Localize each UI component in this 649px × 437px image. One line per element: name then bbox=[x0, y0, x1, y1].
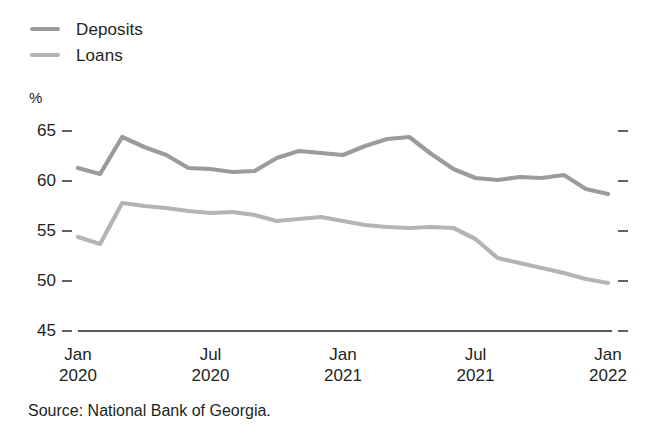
x-tick-month: Jul bbox=[421, 344, 531, 365]
y-tick-label: 50 bbox=[22, 271, 56, 291]
x-tick-year: 2022 bbox=[553, 365, 649, 386]
y-axis-left-ticks bbox=[62, 131, 72, 331]
plot-area: 4550556065 Jan2020Jul2020Jan2021Jul2021J… bbox=[0, 0, 649, 437]
x-tick-year: 2021 bbox=[288, 365, 398, 386]
series-line-deposits bbox=[78, 137, 608, 194]
x-tick-month: Jan bbox=[288, 344, 398, 365]
y-tick-label: 65 bbox=[22, 121, 56, 141]
series-line-loans bbox=[78, 203, 608, 283]
x-tick-year: 2021 bbox=[421, 365, 531, 386]
x-tick-year: 2020 bbox=[23, 365, 133, 386]
x-tick-label: Jan2020 bbox=[23, 344, 133, 386]
x-tick-month: Jul bbox=[156, 344, 266, 365]
x-tick-label: Jan2021 bbox=[288, 344, 398, 386]
x-tick-label: Jul2021 bbox=[421, 344, 531, 386]
x-tick-month: Jan bbox=[553, 344, 649, 365]
x-tick-year: 2020 bbox=[156, 365, 266, 386]
y-tick-label: 60 bbox=[22, 171, 56, 191]
chart-figure: Deposits Loans % 4550556065 Jan2020Jul20… bbox=[0, 0, 649, 437]
x-tick-month: Jan bbox=[23, 344, 133, 365]
y-tick-label: 45 bbox=[22, 321, 56, 341]
y-tick-label: 55 bbox=[22, 221, 56, 241]
y-axis-right-ticks bbox=[618, 131, 628, 331]
x-tick-label: Jan2022 bbox=[553, 344, 649, 386]
x-tick-label: Jul2020 bbox=[156, 344, 266, 386]
source-note: Source: National Bank of Georgia. bbox=[28, 402, 271, 420]
